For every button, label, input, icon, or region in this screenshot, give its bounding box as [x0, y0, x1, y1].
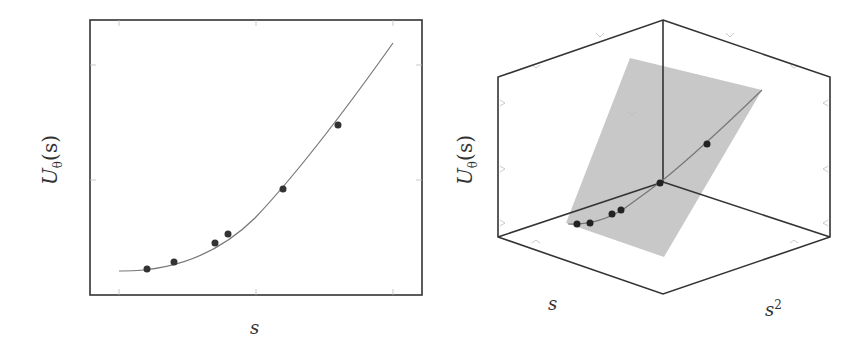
data-points	[144, 122, 342, 273]
right-y-label: Uθ(s)	[453, 125, 477, 185]
left-plot	[90, 20, 422, 295]
right-plot	[498, 20, 830, 294]
left-x-label: s	[250, 317, 259, 338]
right-s2-label: s2	[765, 298, 782, 320]
right-s-label: s	[548, 293, 557, 314]
left-y-label: Uθ(s)	[38, 125, 62, 185]
fit-plane	[566, 58, 762, 257]
figure-canvas	[0, 0, 865, 346]
fitted-curve	[119, 43, 393, 271]
left-ticks	[90, 20, 422, 295]
left-plot-frame	[90, 20, 422, 295]
